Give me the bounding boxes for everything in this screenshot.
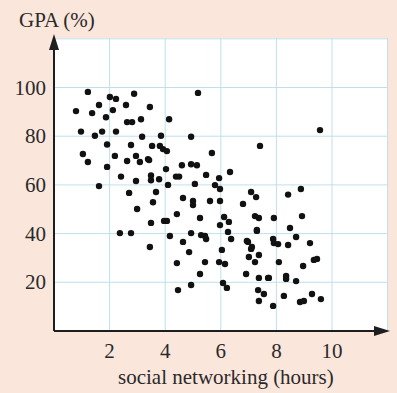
data-point: [203, 236, 209, 242]
data-point: [254, 228, 260, 234]
data-point: [298, 186, 304, 192]
data-point: [78, 128, 84, 134]
data-point: [92, 133, 98, 139]
data-point: [134, 206, 140, 212]
data-point: [73, 108, 79, 114]
data-point: [194, 162, 200, 168]
data-point: [283, 276, 289, 282]
data-point: [309, 291, 315, 297]
data-point: [118, 173, 124, 179]
data-point: [112, 153, 118, 159]
data-point: [285, 242, 291, 248]
data-point: [256, 215, 262, 221]
data-point: [156, 176, 162, 182]
data-point: [176, 173, 182, 179]
data-point: [188, 282, 194, 288]
y-tick-label: 60: [25, 173, 46, 197]
data-point: [175, 287, 181, 293]
data-point: [318, 296, 324, 302]
data-point: [271, 215, 277, 221]
data-point: [190, 202, 196, 208]
data-point: [249, 244, 255, 250]
data-point: [137, 159, 143, 165]
data-point: [85, 89, 91, 95]
data-point: [148, 220, 154, 226]
data-point: [225, 229, 231, 235]
data-point: [281, 293, 287, 299]
data-point: [256, 252, 262, 258]
y-tick-label: 20: [25, 270, 46, 294]
data-point: [139, 134, 145, 140]
data-point: [226, 219, 232, 225]
data-point: [103, 114, 109, 120]
data-point: [244, 238, 250, 244]
data-point: [228, 236, 234, 242]
data-point: [192, 181, 198, 187]
data-point: [276, 259, 282, 265]
data-point: [110, 107, 116, 113]
data-point: [188, 230, 194, 236]
data-point: [150, 199, 156, 205]
x-tick-label: 6: [216, 339, 227, 363]
data-point: [153, 189, 159, 195]
data-point: [307, 240, 313, 246]
data-point: [261, 291, 267, 297]
data-point: [180, 195, 186, 201]
data-point: [148, 177, 154, 183]
y-tick-label: 100: [15, 76, 47, 100]
data-point: [158, 133, 164, 139]
data-point: [317, 127, 323, 133]
data-point: [203, 172, 209, 178]
data-point: [300, 263, 306, 269]
data-point: [197, 215, 203, 221]
data-point: [299, 213, 305, 219]
y-tick-label: 80: [25, 124, 46, 148]
data-point: [179, 162, 185, 168]
data-point: [164, 218, 170, 224]
data-point: [128, 230, 134, 236]
data-point: [246, 254, 252, 260]
data-point: [107, 94, 113, 100]
data-point: [256, 298, 262, 304]
data-point: [113, 96, 119, 102]
data-point: [221, 214, 227, 220]
data-point: [123, 102, 129, 108]
data-point: [186, 249, 192, 255]
data-point: [270, 303, 276, 309]
data-point: [224, 285, 230, 291]
data-point: [138, 116, 144, 122]
data-point: [167, 233, 173, 239]
data-point: [275, 241, 281, 247]
data-point: [146, 157, 152, 163]
data-point: [217, 198, 223, 204]
data-point: [188, 134, 194, 140]
data-point: [188, 161, 194, 167]
data-point: [163, 166, 169, 172]
data-point: [293, 278, 299, 284]
data-point: [126, 190, 132, 196]
data-point: [285, 191, 291, 197]
data-point: [216, 175, 222, 181]
data-point: [219, 247, 225, 253]
data-point: [209, 150, 215, 156]
data-point: [252, 259, 258, 265]
data-point: [216, 259, 222, 265]
data-point: [197, 271, 203, 277]
data-point: [80, 151, 86, 157]
data-point: [133, 153, 139, 159]
data-point: [174, 260, 180, 266]
data-point: [131, 91, 137, 97]
data-point: [96, 102, 102, 108]
data-point: [165, 182, 171, 188]
data-point: [293, 234, 299, 240]
data-point: [147, 104, 153, 110]
data-point: [104, 164, 110, 170]
scatter-chart: 246810 20406080100 GPA (%) social networ…: [0, 0, 397, 393]
data-point: [227, 169, 233, 175]
x-axis-title: social networking (hours): [118, 365, 334, 389]
data-point: [195, 90, 201, 96]
data-point: [133, 178, 139, 184]
data-point: [124, 158, 130, 164]
data-point: [255, 287, 261, 293]
data-point: [202, 259, 208, 265]
